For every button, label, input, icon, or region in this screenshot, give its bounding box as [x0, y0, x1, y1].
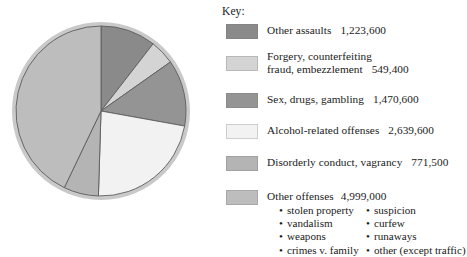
legend-label-sex-drugs-gambling: Sex, drugs, gambling1,470,600: [267, 93, 419, 106]
bullet-icon: •: [366, 244, 374, 257]
legend-row[interactable]: Sex, drugs, gambling1,470,600: [219, 92, 462, 112]
legend-row[interactable]: Forgery, counterfeiting fraud, embezzlem…: [219, 55, 462, 87]
bullet-icon: •: [366, 230, 374, 243]
sublist-row: •vandalism•curfew: [267, 217, 467, 230]
legend-item-label: Disorderly conduct, vagrancy: [267, 156, 402, 168]
sublist-item: •stolen property: [279, 204, 354, 217]
legend-row[interactable]: Other assaults1,223,600: [219, 22, 462, 42]
pie-slice-group: [16, 26, 186, 196]
legend-item-value: 771,500: [411, 156, 448, 168]
bullet-icon: •: [279, 204, 287, 217]
legend-swatch-sex-drugs-gambling: [226, 93, 258, 108]
legend-label-forgery: Forgery, counterfeiting fraud, embezzlem…: [267, 50, 459, 76]
sublist-item: •runaways: [366, 230, 417, 243]
legend-row[interactable]: Disorderly conduct, vagrancy771,500: [219, 155, 462, 175]
legend-swatch-alcohol: [226, 124, 258, 139]
bullet-icon: •: [366, 217, 374, 230]
legend-item-value: 1,223,600: [340, 24, 386, 36]
other-offenses-sublist: •stolen property•suspicion•vandalism•cur…: [267, 204, 467, 257]
sublist-item: •crimes v. family: [279, 244, 359, 257]
legend-swatch-disorderly: [226, 156, 258, 171]
legend-item-value: 4,999,000: [341, 190, 387, 202]
pie-chart-panel: [0, 0, 215, 249]
sublist-item: •vandalism: [279, 217, 333, 230]
legend-item-label: Alcohol-related offenses: [267, 124, 379, 136]
legend-label-other-offenses: Other offenses4,999,000: [267, 190, 386, 203]
sublist-row: •weapons•runaways: [267, 230, 467, 243]
legend-item-value: 549,400: [372, 63, 409, 75]
sublist-item: •curfew: [366, 217, 405, 230]
legend-item-label: Other offenses: [267, 190, 334, 202]
legend-swatch-other-assaults: [226, 24, 258, 39]
legend-label-disorderly: Disorderly conduct, vagrancy771,500: [267, 156, 448, 169]
pie-chart-svg: [0, 0, 215, 249]
bullet-icon: •: [366, 204, 374, 217]
sublist-item: •suspicion: [366, 204, 416, 217]
sublist-row: •stolen property•suspicion: [267, 204, 467, 217]
legend-item-label: Other assaults: [267, 24, 331, 36]
legend-label-other-assaults: Other assaults1,223,600: [267, 24, 386, 37]
legend-item-label-line2: fraud, embezzlement: [267, 63, 363, 75]
legend-item-value: 1,470,600: [373, 93, 419, 105]
legend-swatch-other-offenses: [226, 190, 258, 205]
sublist-item: •other (except traffic): [366, 244, 466, 257]
bullet-icon: •: [279, 230, 287, 243]
legend-item-value: 2,639,600: [388, 124, 434, 136]
bullet-icon: •: [279, 217, 287, 230]
legend: Key: Other assaults1,223,600 Forgery, co…: [219, 0, 462, 249]
legend-item-label-line1: Forgery, counterfeiting: [267, 50, 459, 63]
legend-swatch-forgery: [226, 56, 258, 71]
legend-row[interactable]: Alcohol-related offenses2,639,600: [219, 123, 462, 143]
legend-title: Key:: [222, 5, 245, 17]
legend-item-label: Sex, drugs, gambling: [267, 93, 364, 105]
legend-row[interactable]: Other offenses4,999,000 •stolen property…: [219, 189, 462, 249]
bullet-icon: •: [279, 244, 287, 257]
sublist-row: •crimes v. family•other (except traffic): [267, 244, 467, 257]
legend-label-alcohol: Alcohol-related offenses2,639,600: [267, 124, 434, 137]
sublist-item: •weapons: [279, 230, 326, 243]
pie-slice[interactable]: [98, 111, 184, 196]
